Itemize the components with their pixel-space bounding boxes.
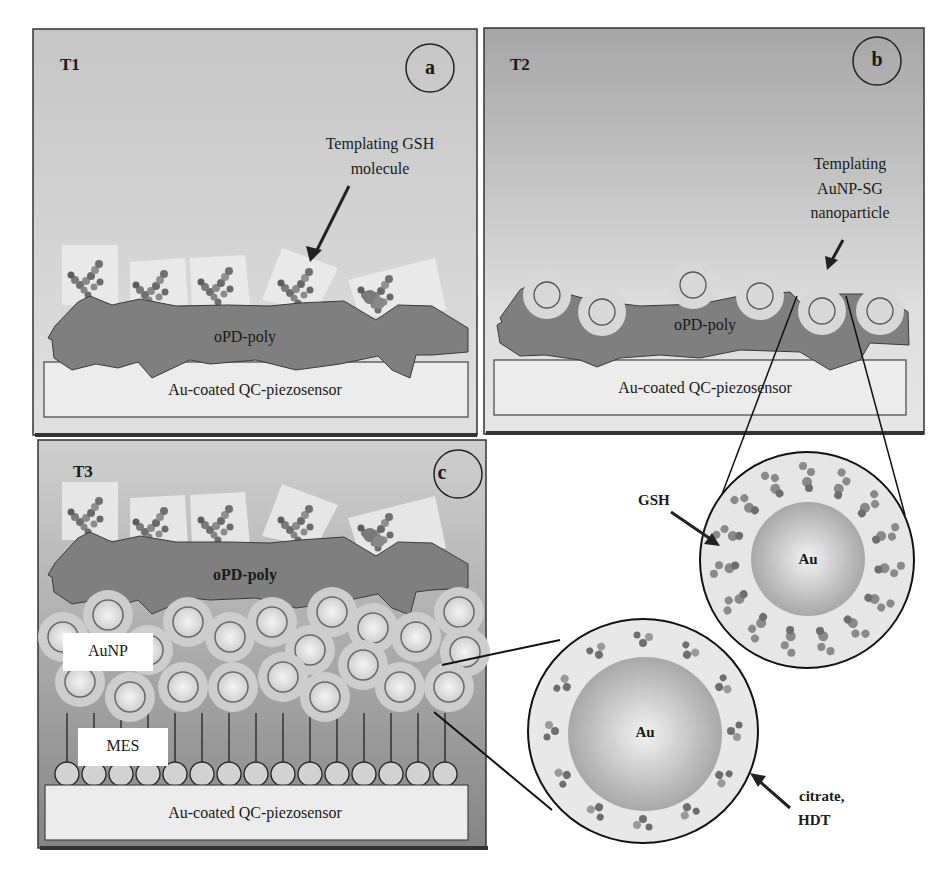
panel-a — [33, 29, 477, 437]
citrate-inset-label-line2: HDT — [798, 812, 831, 829]
citrate-inset-label-line1: citrate, — [799, 788, 844, 805]
panel-b-tag: T2 — [510, 55, 530, 75]
gsh-inset-core-label: Au — [788, 551, 828, 568]
panel-a-polymer-label: oPD-poly — [190, 328, 300, 346]
panel-c-letter: c — [428, 461, 456, 484]
citrate-inset-core-label: Au — [625, 724, 665, 741]
panel-c-tag: T3 — [73, 462, 93, 482]
panel-b-substrate-label: Au-coated QC-piezosensor — [570, 379, 840, 397]
panel-b-polymer-label: oPD-poly — [650, 316, 760, 334]
panel-b-annotation-line1: Templating — [790, 155, 910, 173]
panel-a-tag: T1 — [60, 55, 80, 75]
panel-b-letter: b — [863, 48, 891, 71]
panel-c-substrate-label: Au-coated QC-piezosensor — [120, 804, 390, 822]
panel-c-aunp-label: AuNP — [63, 642, 153, 660]
panel-a-annotation-line2: molecule — [300, 160, 460, 178]
panel-a-substrate-label: Au-coated QC-piezosensor — [120, 381, 390, 399]
panel-a-letter: a — [416, 56, 444, 79]
panel-b-annotation-line3: nanoparticle — [780, 204, 920, 222]
panel-c-mes-label: MES — [78, 737, 168, 755]
panel-c-polymer-label: oPD-poly — [190, 566, 300, 584]
gsh-inset-shell-label: GSH — [638, 492, 670, 509]
panel-b-annotation-line2: AuNP-SG — [790, 180, 910, 198]
panel-b — [484, 28, 924, 515]
panel-a-annotation-line1: Templating GSH — [300, 135, 460, 153]
